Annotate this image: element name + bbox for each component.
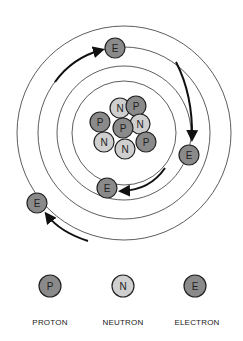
particle-symbol: P bbox=[133, 101, 140, 112]
particle-symbol: P bbox=[47, 281, 54, 292]
particle-symbol: N bbox=[100, 137, 107, 148]
arrow-icon bbox=[55, 50, 101, 82]
legend-proton-icon: P bbox=[39, 275, 61, 297]
particle-symbol: P bbox=[143, 137, 150, 148]
particle-symbol: E bbox=[186, 150, 193, 161]
electron-particle: E bbox=[97, 178, 117, 198]
electron-particle: E bbox=[105, 38, 125, 58]
electron-particle: E bbox=[27, 193, 47, 213]
particle-symbol: P bbox=[97, 117, 104, 128]
proton-particle: P bbox=[113, 118, 133, 138]
legend-label-electron: ELECTRON bbox=[174, 318, 219, 327]
legend: PNE bbox=[39, 275, 206, 297]
legend-label-neutron: NEUTRON bbox=[103, 318, 144, 327]
particle-symbol: E bbox=[104, 183, 111, 194]
legend-label-proton: PROTON bbox=[32, 318, 67, 327]
proton-particle: P bbox=[90, 112, 110, 132]
atom-diagram: NPPNPNPN EEEE PNE bbox=[0, 0, 243, 341]
particle-symbol: N bbox=[119, 281, 126, 292]
particle-symbol: N bbox=[136, 119, 143, 130]
legend-neutron-icon: N bbox=[112, 275, 134, 297]
particle-symbol: N bbox=[121, 144, 128, 155]
arrow-icon bbox=[47, 215, 88, 241]
proton-particle: P bbox=[126, 96, 146, 116]
nucleus: NPPNPNPN bbox=[90, 96, 156, 159]
particle-symbol: N bbox=[116, 103, 123, 114]
particle-symbol: E bbox=[112, 43, 119, 54]
particle-symbol: E bbox=[34, 198, 41, 209]
neutron-particle: N bbox=[115, 139, 135, 159]
electron-particle: E bbox=[179, 145, 199, 165]
proton-particle: P bbox=[136, 132, 156, 152]
particle-symbol: E bbox=[192, 281, 199, 292]
neutron-particle: N bbox=[94, 132, 114, 152]
arrow-icon bbox=[176, 62, 192, 138]
particle-symbol: P bbox=[120, 123, 127, 134]
legend-electron-icon: E bbox=[184, 275, 206, 297]
